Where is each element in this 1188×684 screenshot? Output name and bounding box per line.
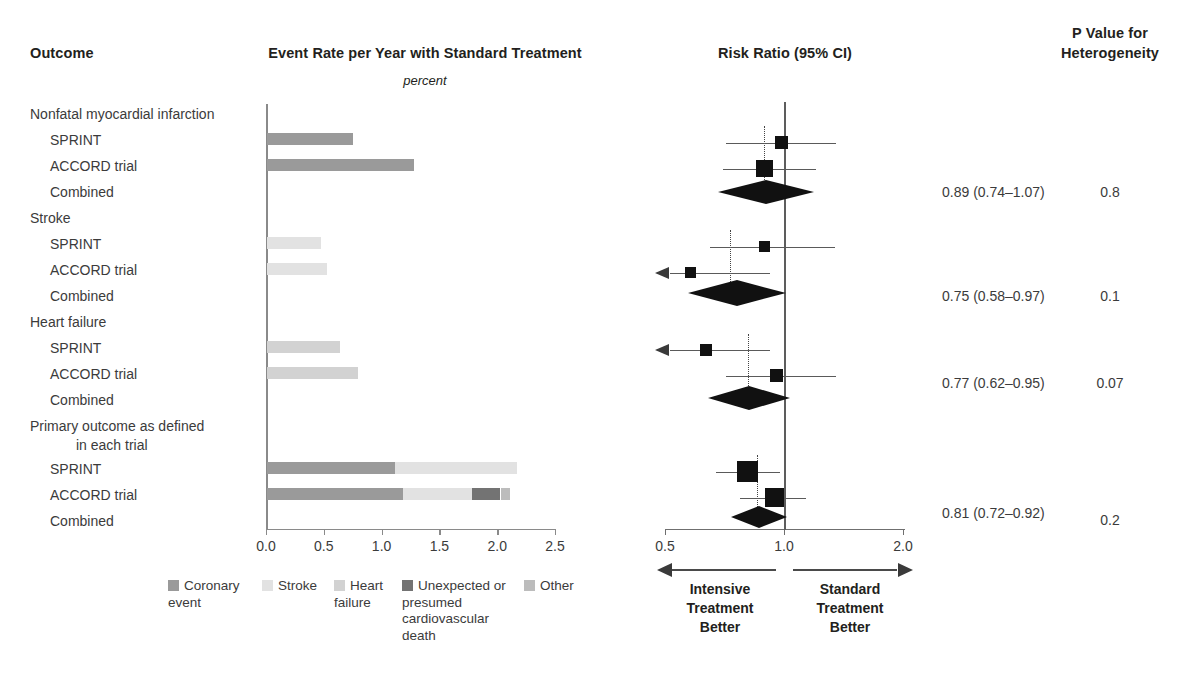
bar-tick-label-3: 1.5 xyxy=(419,538,459,554)
direction-label-left-line2: Treatment xyxy=(660,599,780,618)
column-header-p-value-line2: Heterogeneity xyxy=(1035,45,1185,61)
forest-diamond-primary-combined xyxy=(731,504,787,530)
forest-marker-hf-sprint xyxy=(700,344,712,356)
bar-tick-2 xyxy=(382,529,383,535)
p-value-hf: 0.07 xyxy=(1035,375,1185,391)
bar-tick-0 xyxy=(266,529,267,535)
p-value-primary: 0.2 xyxy=(1035,512,1185,528)
bar-segment-stroke-sprint xyxy=(267,237,321,249)
forest-diamond-hf-combined xyxy=(708,384,790,412)
direction-label-left-line1: Intensive xyxy=(660,580,780,599)
forest-tick-label-1.0: 1.0 xyxy=(764,538,804,554)
direction-label-right-line2: Treatment xyxy=(790,599,910,618)
direction-arrow-right-icon xyxy=(893,562,913,578)
row-label-accord-hf: ACCORD trial xyxy=(30,366,137,383)
p-value-stroke: 0.1 xyxy=(1035,288,1185,304)
row-label-combined-stroke: Combined xyxy=(30,288,114,305)
bar-segment-primary-sprint-stroke xyxy=(395,462,516,474)
forest-plot-figure: Outcome Event Rate per Year with Standar… xyxy=(0,0,1188,684)
legend-swatch-coronary-event-icon xyxy=(168,580,179,591)
legend-item-coronary-event: Coronary event xyxy=(168,578,248,611)
risk-ratio-value-primary: 0.81 (0.72–0.92) xyxy=(942,505,1045,521)
risk-ratio-value-hf: 0.77 (0.62–0.95) xyxy=(942,375,1045,391)
row-label-group-primary-outcome: Primary outcome as defined xyxy=(30,418,204,435)
legend-swatch-heart-failure-icon xyxy=(334,580,345,591)
legend-swatch-other-icon xyxy=(524,580,535,591)
column-header-event-rate: Event Rate per Year with Standard Treatm… xyxy=(255,45,595,61)
forest-ci-arrow-stroke-accord xyxy=(655,265,675,281)
bar-segment-primary-accord-cvdeath xyxy=(472,488,501,500)
row-label-sprint-primary: SPRINT xyxy=(30,461,101,478)
legend-swatch-cv-death-icon xyxy=(402,580,413,591)
row-label-group-primary-outcome-cont: in each trial xyxy=(30,437,148,454)
row-label-sprint-stroke: SPRINT xyxy=(30,236,101,253)
bar-tick-1 xyxy=(324,529,325,535)
legend-item-other: Other xyxy=(524,578,594,595)
risk-ratio-value-stroke: 0.75 (0.58–0.97) xyxy=(942,288,1045,304)
direction-label-left-line3: Better xyxy=(660,618,780,637)
direction-line-left xyxy=(672,569,776,571)
risk-ratio-value-mi: 0.89 (0.74–1.07) xyxy=(942,184,1045,200)
legend-item-heart-failure: Heart failure xyxy=(334,578,396,611)
legend-label-stroke: Stroke xyxy=(278,578,317,593)
bar-segment-mi-accord-coronary xyxy=(267,159,414,171)
direction-label-right-line3: Better xyxy=(790,618,910,637)
p-value-mi: 0.8 xyxy=(1035,184,1185,200)
bar-segment-hf-accord xyxy=(267,367,358,379)
forest-tick-0.5 xyxy=(665,529,666,535)
forest-diamond-mi-combined xyxy=(718,178,814,206)
bar-tick-label-5: 2.5 xyxy=(535,538,575,554)
forest-diamond-stroke-combined xyxy=(688,278,786,308)
forest-marker-mi-accord xyxy=(756,160,773,177)
forest-tick-label-2.0: 2.0 xyxy=(883,538,923,554)
forest-tick-2.0 xyxy=(903,529,904,535)
direction-label-right-line1: Standard xyxy=(790,580,910,599)
bar-tick-3 xyxy=(439,529,440,535)
row-label-accord-mi: ACCORD trial xyxy=(30,158,137,175)
legend-label-cv-death: Unexpected or presumed cardiovascular de… xyxy=(402,578,506,643)
forest-tick-label-0.5: 0.5 xyxy=(645,538,685,554)
row-label-group-stroke: Stroke xyxy=(30,210,70,227)
row-label-group-nonfatal-mi: Nonfatal myocardial infarction xyxy=(30,106,214,123)
bar-chart-x-axis xyxy=(266,529,555,530)
legend-label-other: Other xyxy=(540,578,574,593)
legend-item-stroke: Stroke xyxy=(262,578,328,595)
row-label-group-heart-failure: Heart failure xyxy=(30,314,106,331)
bar-tick-label-4: 2.0 xyxy=(477,538,517,554)
bar-tick-4 xyxy=(497,529,498,535)
forest-marker-primary-sprint xyxy=(737,461,758,482)
row-label-sprint-hf: SPRINT xyxy=(30,340,101,357)
column-header-risk-ratio: Risk Ratio (95% CI) xyxy=(660,45,910,61)
row-label-accord-stroke: ACCORD trial xyxy=(30,262,137,279)
forest-marker-hf-accord xyxy=(770,369,783,382)
direction-line-right xyxy=(793,569,897,571)
row-label-combined-hf: Combined xyxy=(30,392,114,409)
bar-tick-label-2: 1.0 xyxy=(362,538,402,554)
direction-arrow-left-icon xyxy=(657,562,677,578)
row-label-accord-primary: ACCORD trial xyxy=(30,487,137,504)
bar-tick-label-1: 0.5 xyxy=(304,538,344,554)
forest-ci-line-hf-sprint xyxy=(670,350,770,351)
bar-segment-primary-accord-other xyxy=(501,488,510,500)
legend-item-cv-death: Unexpected or presumed cardiovascular de… xyxy=(402,578,514,644)
bar-segment-primary-accord-stroke xyxy=(403,488,471,500)
row-label-combined-mi: Combined xyxy=(30,184,114,201)
column-header-outcome: Outcome xyxy=(30,45,94,61)
bar-segment-mi-sprint-coronary xyxy=(267,133,353,145)
bar-segment-hf-sprint xyxy=(267,341,340,353)
row-label-sprint-mi: SPRINT xyxy=(30,132,101,149)
forest-marker-stroke-accord xyxy=(685,267,696,278)
bar-segment-stroke-accord xyxy=(267,263,327,275)
row-label-combined-primary: Combined xyxy=(30,513,114,530)
forest-null-reference-line xyxy=(784,102,786,530)
bar-tick-label-0: 0.0 xyxy=(246,538,286,554)
forest-marker-mi-sprint xyxy=(775,136,788,149)
forest-ci-line-stroke-sprint xyxy=(710,247,835,248)
column-header-p-value-line1: P Value for xyxy=(1035,25,1185,41)
forest-ci-arrow-hf-sprint xyxy=(655,342,675,358)
bar-segment-primary-sprint-coronary xyxy=(267,462,395,474)
bar-segment-primary-accord-coronary xyxy=(267,488,403,500)
bar-tick-5 xyxy=(555,529,556,535)
column-subheader-percent: percent xyxy=(255,73,595,88)
legend-swatch-stroke-icon xyxy=(262,580,273,591)
